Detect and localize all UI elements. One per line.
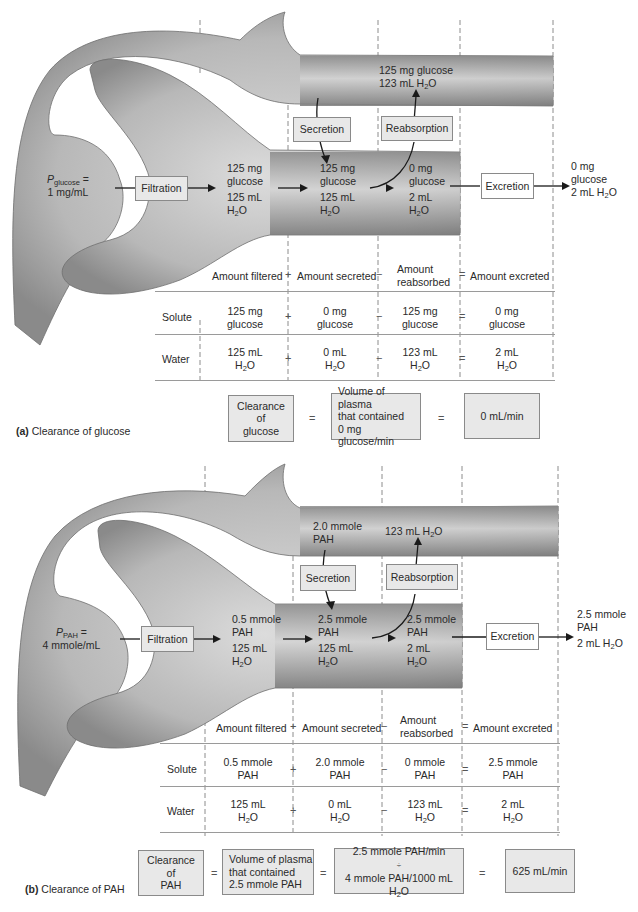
water-secreted: 0 mLH2O bbox=[310, 798, 370, 824]
equals-sign: = bbox=[320, 867, 326, 879]
capillary-secreted-pah: 2.0 mmole PAH bbox=[313, 520, 362, 546]
operator-equals: = bbox=[462, 720, 468, 732]
water-o: O bbox=[419, 655, 427, 667]
tubule-after-secretion: 2.5 mmole PAH 125 mL H2O bbox=[318, 613, 367, 668]
plasma-symbol: P bbox=[47, 173, 54, 185]
line: Volume of plasma bbox=[338, 385, 385, 410]
water-o: O bbox=[615, 637, 623, 649]
solute-amount: 2.5 mmole bbox=[577, 608, 626, 620]
suffix: O bbox=[434, 525, 442, 537]
operator-equals: = bbox=[462, 804, 468, 816]
tubule-after-reabsorption: 2.5 mmole PAH 2 mL H2O bbox=[407, 613, 456, 668]
operator-plus: + bbox=[285, 268, 291, 280]
water-o: O bbox=[239, 204, 247, 216]
cell-line1: 0 mg bbox=[495, 305, 518, 317]
water-amount: 125 mL bbox=[227, 191, 263, 204]
header-line1: Amount bbox=[397, 263, 433, 275]
solute-name: PAH bbox=[232, 626, 253, 638]
excretion-box: Excretion bbox=[481, 173, 534, 199]
cell-line1: 2.0 mmole bbox=[315, 756, 364, 768]
cell-line2: glucose bbox=[317, 318, 353, 330]
secretion-label: Secretion bbox=[306, 572, 350, 585]
solute-filtered: 0.5 mmolePAH bbox=[218, 756, 278, 782]
tubule-after-filtration: 0.5 mmole PAH 125 mL H2O bbox=[232, 613, 281, 668]
excretion-label: Excretion bbox=[486, 180, 530, 193]
header-amount-excreted: Amount excreted bbox=[470, 270, 549, 283]
capillary-reabsorbed-water: 123 mL H2O bbox=[385, 525, 442, 538]
cell-line2: glucose bbox=[402, 318, 438, 330]
caption-text: Clearance of PAH bbox=[41, 883, 124, 895]
solute-name: glucose bbox=[571, 173, 607, 185]
solute-name: PAH bbox=[577, 621, 598, 633]
solute-reabsorbed: 0 mmolePAH bbox=[395, 756, 455, 782]
equals-sign: = bbox=[438, 412, 444, 424]
water-filtered: 125 mLH2O bbox=[215, 346, 275, 372]
plasma-concentration-label: PPAH = 4 mmole/mL bbox=[24, 626, 119, 652]
volume-plasma-box: Volume of plasmathat contained2.5 mmole … bbox=[222, 849, 314, 895]
tubule-after-secretion: 125 mg glucose 125 mL H2O bbox=[320, 162, 356, 217]
header-amount-filtered: Amount filtered bbox=[212, 270, 283, 283]
reabsorption-label: Reabsorption bbox=[386, 122, 448, 135]
solute-amount: 0 mg bbox=[571, 160, 594, 172]
solute-name: glucose bbox=[320, 175, 356, 187]
line2: PAH bbox=[313, 533, 334, 545]
operator-equals: = bbox=[462, 763, 468, 775]
line: that contained bbox=[338, 410, 404, 422]
water-amount: 125 mL bbox=[318, 642, 367, 655]
calculation-box: 2.5 mmole PAH/min÷4 mmole PAH/1000 mL H2… bbox=[334, 848, 464, 894]
cell-line2: PAH bbox=[330, 769, 351, 781]
cell-line1: 125 mg bbox=[227, 305, 262, 317]
line: Clearance bbox=[147, 854, 195, 866]
solute-amount: 2.5 mmole bbox=[318, 613, 367, 625]
clearance-result: 0 mL/min bbox=[480, 410, 523, 423]
cell-line1: 123 mL bbox=[407, 798, 442, 810]
header-amount-secreted: Amount secreted bbox=[297, 270, 376, 283]
table-divider bbox=[155, 380, 555, 381]
panel-caption: (a) Clearance of glucose bbox=[16, 425, 130, 437]
plasma-concentration-value: 1 mg/mL bbox=[48, 186, 89, 198]
water-amount: 125 mL bbox=[320, 191, 356, 204]
equals-sign: = bbox=[479, 867, 485, 879]
water-excreted: 2 mLH2O bbox=[477, 346, 537, 372]
reabsorption-label: Reabsorption bbox=[391, 571, 453, 584]
capillary-content: 125 mg glucose 123 mL H2O bbox=[379, 64, 453, 90]
water-o: O bbox=[609, 186, 617, 198]
solute-excreted: 2.5 mmolePAH bbox=[483, 756, 543, 782]
operator-equals: = bbox=[459, 352, 465, 364]
water-text: 123 mL H bbox=[385, 525, 430, 537]
cell-line1: 125 mg bbox=[402, 305, 437, 317]
solute-name: glucose bbox=[227, 175, 263, 187]
solute-name: glucose bbox=[409, 175, 445, 187]
water-amount: 2 mL H bbox=[577, 637, 610, 649]
excretion-label: Excretion bbox=[491, 630, 535, 643]
equals-sign: = bbox=[78, 626, 87, 638]
header-line2: reabsorbed bbox=[400, 727, 453, 739]
water-h: H bbox=[318, 655, 326, 667]
cell-line2: glucose bbox=[227, 318, 263, 330]
clearance-label-box: Clearanceofglucose bbox=[228, 395, 294, 442]
line: of bbox=[257, 412, 266, 424]
tubule-after-reabsorption: 0 mg glucose 2 mL H2O bbox=[409, 162, 445, 217]
equals-sign: = bbox=[309, 412, 315, 424]
header-line2: reabsorbed bbox=[397, 276, 450, 288]
header-amount-secreted: Amount secreted bbox=[302, 722, 381, 735]
secretion-label: Secretion bbox=[300, 123, 344, 136]
cell-line1: 0 mmole bbox=[405, 756, 445, 768]
line1: 2.0 mmole bbox=[313, 520, 362, 532]
capillary-water: 123 mL H2O bbox=[379, 77, 436, 89]
operator-minus: − bbox=[376, 268, 382, 280]
operator-minus: − bbox=[376, 310, 382, 322]
line: that contained bbox=[229, 866, 295, 878]
line: Clearance bbox=[237, 400, 285, 412]
solute-reabsorbed: 125 mgglucose bbox=[390, 305, 450, 331]
solute-name: PAH bbox=[318, 626, 339, 638]
line: 0 mg glucose/min bbox=[338, 423, 394, 448]
suffix: O bbox=[401, 885, 409, 897]
cell-line1: 2.5 mmole bbox=[488, 756, 537, 768]
water-o: O bbox=[330, 655, 338, 667]
cell-line1: 123 mL bbox=[402, 346, 437, 358]
row-label-solute: Solute bbox=[162, 311, 192, 324]
panel-pah-clearance: PPAH = 4 mmole/mL Filtration Secretion R… bbox=[0, 456, 638, 912]
header-amount-filtered: Amount filtered bbox=[216, 722, 287, 735]
line: glucose bbox=[243, 425, 279, 437]
